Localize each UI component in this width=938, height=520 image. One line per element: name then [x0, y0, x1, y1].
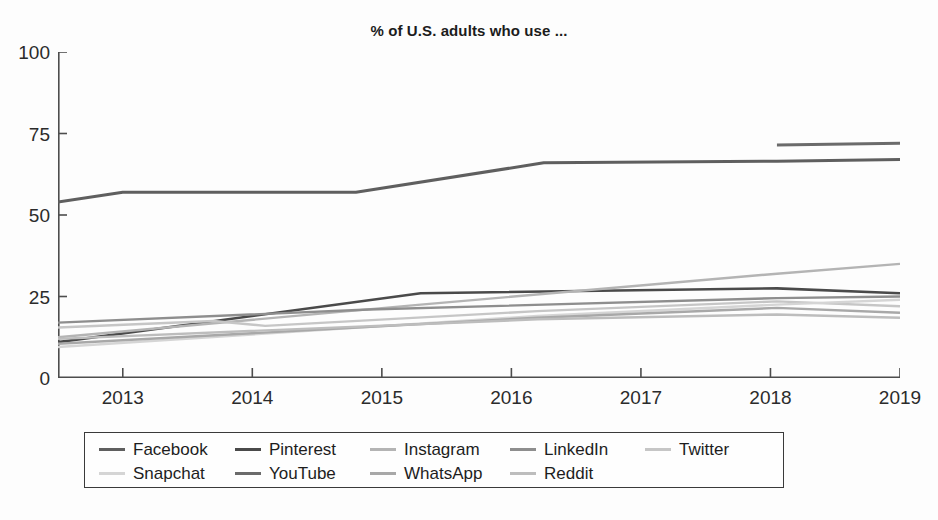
plot-svg — [58, 52, 900, 378]
legend-swatch-icon — [370, 448, 396, 451]
legend-item-linkedin[interactable]: LinkedIn — [510, 437, 608, 461]
legend-item-twitter[interactable]: Twitter — [645, 437, 729, 461]
legend-swatch-icon — [99, 472, 125, 475]
chart-legend: FacebookPinterestInstagramLinkedInTwitte… — [84, 432, 784, 488]
legend-item-empty — [645, 461, 679, 485]
legend-row: SnapchatYouTubeWhatsAppReddit — [85, 461, 785, 485]
legend-label: Pinterest — [269, 441, 336, 458]
x-tick-label: 2016 — [471, 388, 551, 407]
legend-label: Instagram — [404, 441, 480, 458]
x-tick-label: 2018 — [730, 388, 810, 407]
x-tick-label: 2019 — [860, 388, 938, 407]
legend-item-instagram[interactable]: Instagram — [370, 437, 480, 461]
x-tick-label: 2013 — [83, 388, 163, 407]
chart-page: % of U.S. adults who use ... 0255075100 … — [0, 0, 938, 520]
y-tick-label: 0 — [6, 369, 50, 388]
series-line-facebook — [58, 160, 900, 202]
legend-item-pinterest[interactable]: Pinterest — [235, 437, 336, 461]
legend-item-snapchat[interactable]: Snapchat — [99, 461, 205, 485]
legend-row: FacebookPinterestInstagramLinkedInTwitte… — [85, 437, 785, 461]
legend-item-whatsapp[interactable]: WhatsApp — [370, 461, 482, 485]
legend-swatch-icon — [99, 448, 125, 451]
legend-swatch-icon — [645, 472, 671, 475]
plot-area — [58, 52, 900, 378]
x-tick-label: 2015 — [342, 388, 422, 407]
legend-label: Reddit — [544, 465, 593, 482]
legend-swatch-icon — [235, 472, 261, 475]
legend-item-facebook[interactable]: Facebook — [99, 437, 208, 461]
legend-item-reddit[interactable]: Reddit — [510, 461, 593, 485]
legend-label: YouTube — [269, 465, 336, 482]
y-tick-label: 50 — [6, 206, 50, 225]
legend-swatch-icon — [235, 448, 261, 451]
legend-label: WhatsApp — [404, 465, 482, 482]
x-tick-label: 2014 — [212, 388, 292, 407]
y-tick-label: 25 — [6, 288, 50, 307]
legend-label: Snapchat — [133, 465, 205, 482]
legend-swatch-icon — [370, 472, 396, 475]
legend-label: Facebook — [133, 441, 208, 458]
legend-swatch-icon — [510, 448, 536, 451]
legend-swatch-icon — [645, 448, 671, 451]
axis-spines — [59, 52, 900, 377]
legend-item-youtube[interactable]: YouTube — [235, 461, 336, 485]
chart-title: % of U.S. adults who use ... — [0, 22, 938, 39]
legend-label: Twitter — [679, 441, 729, 458]
series-line-youtube — [777, 143, 900, 145]
y-tick-label: 75 — [6, 125, 50, 144]
y-tick-label: 100 — [6, 43, 50, 62]
x-tick-label: 2017 — [601, 388, 681, 407]
legend-swatch-icon — [510, 472, 536, 475]
legend-label: LinkedIn — [544, 441, 608, 458]
